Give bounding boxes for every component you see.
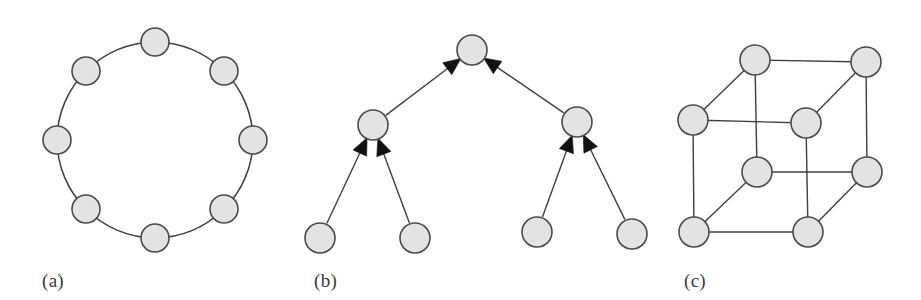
ring-node-1 [210, 57, 238, 85]
panel-caption-a: (a) [42, 270, 64, 292]
tree-edge-2 [327, 151, 361, 223]
ring-node-5 [72, 195, 100, 223]
cube-node-5 [852, 157, 882, 187]
tree-node-group [305, 35, 647, 253]
ring-node-group [43, 28, 267, 252]
cube-edge-2 [755, 60, 757, 172]
cube-diagram-svg [670, 0, 921, 300]
panel-tree-topology: (b) [300, 0, 670, 300]
cube-node-6 [679, 217, 709, 247]
tree-node-0 [457, 35, 487, 65]
tree-diagram-svg [300, 0, 670, 300]
cube-node-group [678, 45, 882, 247]
tree-node-3 [305, 223, 335, 253]
tree-edge-0 [386, 68, 449, 116]
panel-ring-topology: (a) [0, 0, 300, 300]
ring-node-2 [239, 126, 267, 154]
tree-edge-group [327, 66, 625, 223]
cube-edge-4 [866, 62, 867, 172]
tree-edge-1 [496, 66, 564, 113]
tree-arrowhead-3 [377, 138, 391, 157]
cube-node-0 [740, 45, 770, 75]
cube-node-2 [678, 105, 708, 135]
figure-root: (a) (b) (c) [0, 0, 921, 300]
cube-node-3 [791, 108, 821, 138]
cube-edge-6 [693, 120, 694, 232]
tree-edge-5 [590, 148, 625, 220]
cube-node-1 [851, 47, 881, 77]
tree-node-5 [522, 217, 552, 247]
tree-arrowhead-5 [583, 135, 597, 154]
tree-edge-4 [542, 149, 567, 217]
tree-arrowhead-group [353, 58, 597, 157]
panel-cube-topology: (c) [670, 0, 921, 300]
ring-node-0 [141, 28, 169, 56]
tree-arrowhead-2 [353, 138, 367, 157]
tree-arrowhead-4 [559, 135, 573, 154]
ring-node-4 [141, 224, 169, 252]
panel-caption-c: (c) [684, 270, 706, 292]
cube-edge-0 [755, 60, 866, 62]
ring-node-7 [72, 57, 100, 85]
cube-edge-7 [806, 123, 808, 232]
panel-caption-b: (b) [314, 270, 337, 292]
tree-node-1 [358, 110, 388, 140]
tree-arrowhead-0 [443, 58, 461, 74]
tree-edge-3 [383, 152, 409, 223]
cube-node-4 [742, 157, 772, 187]
tree-node-2 [562, 107, 592, 137]
tree-arrowhead-1 [484, 58, 502, 74]
ring-diagram-svg [0, 0, 300, 300]
tree-node-4 [400, 223, 430, 253]
ring-node-6 [43, 126, 71, 154]
ring-node-3 [210, 195, 238, 223]
tree-node-6 [617, 219, 647, 249]
cube-node-7 [793, 217, 823, 247]
cube-edge-group [693, 60, 867, 232]
cube-edge-5 [693, 120, 806, 123]
